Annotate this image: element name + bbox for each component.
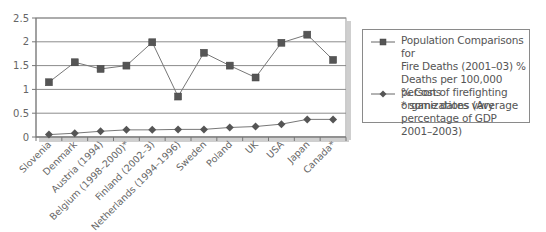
diamond-marker-icon (371, 89, 395, 99)
y-tick-label: 1 (23, 84, 29, 95)
x-axis: SloveniaDenmarkAustria (1994)Belgium (19… (17, 137, 346, 232)
square-data-point (252, 74, 259, 81)
square-data-point (123, 62, 130, 69)
y-tick-label: 1.5 (13, 60, 29, 71)
square-data-point (97, 65, 104, 72)
square-data-point (226, 62, 233, 69)
square-data-point (71, 59, 78, 66)
gridlines (36, 18, 346, 137)
square-data-point (330, 56, 337, 63)
y-tick-label: 2.5 (13, 13, 29, 24)
x-category-label: Poland (204, 139, 234, 169)
y-tick-label: 0 (23, 132, 29, 143)
square-data-point (45, 79, 52, 86)
square-data-point (304, 31, 311, 38)
square-data-point (200, 49, 207, 56)
square-data-point (149, 39, 156, 46)
square-data-point (175, 93, 182, 100)
y-tick-label: 2 (23, 36, 29, 47)
y-tick-label: 0.5 (13, 108, 29, 119)
square-data-point (278, 39, 285, 46)
legend-label: % Cost of firefighting organizations (Av… (401, 86, 527, 138)
y-axis: 00.511.522.5 (13, 13, 36, 143)
chart-legend: Population Comparisons for Fire Deaths (… (362, 29, 530, 123)
square-marker-icon (371, 37, 395, 47)
